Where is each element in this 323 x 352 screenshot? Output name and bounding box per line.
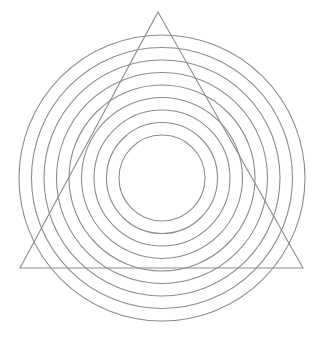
canvas-background — [0, 0, 323, 352]
concentric-circles-triangle-figure — [0, 0, 323, 352]
figure-canvas — [0, 0, 323, 352]
